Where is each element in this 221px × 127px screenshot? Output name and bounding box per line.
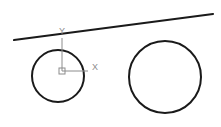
left-circle[interactable]: [32, 50, 84, 102]
right-circle[interactable]: [129, 41, 201, 113]
cad-viewport[interactable]: Y X: [0, 0, 221, 127]
ucs-y-label: Y: [59, 26, 65, 36]
slanted-line[interactable]: [14, 14, 213, 40]
ucs-x-label: X: [92, 62, 98, 72]
cad-drawing-canvas[interactable]: Y X: [0, 0, 221, 127]
